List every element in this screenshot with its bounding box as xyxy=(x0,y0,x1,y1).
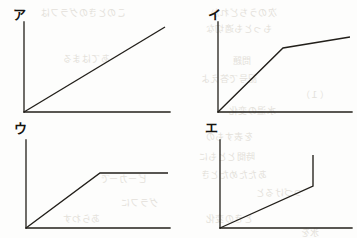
panel-e-data-line xyxy=(220,155,313,228)
four-panel-line-graph-figure xyxy=(0,0,357,238)
panel-label-i: イ xyxy=(208,8,221,21)
panel-e xyxy=(220,140,352,228)
panel-a-data-line xyxy=(24,27,165,112)
panel-label-a: ア xyxy=(13,8,26,21)
panel-label-e: エ xyxy=(205,121,218,134)
panel-i xyxy=(218,22,352,112)
panel-u xyxy=(26,140,170,228)
panel-a xyxy=(24,22,170,112)
panel-label-u: ウ xyxy=(14,122,27,135)
panel-u-data-line xyxy=(26,173,168,228)
panel-i-data-line xyxy=(218,37,350,112)
